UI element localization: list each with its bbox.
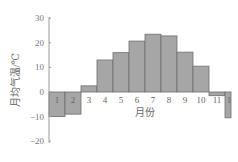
month-label: 8: [167, 95, 172, 105]
bar-month-8: [161, 36, 177, 92]
month-label: 1: [227, 95, 232, 105]
bar-month-5: [113, 53, 129, 92]
month-label: 4: [103, 95, 108, 105]
bar-month-3: [81, 86, 97, 92]
month-label: 9: [183, 95, 188, 105]
y-axis-title: 月均气温/℃: [9, 53, 21, 107]
y-axis-ticks: 3020100−10−20: [30, 13, 51, 146]
bar-month-9: [177, 52, 193, 92]
month-label: 1: [55, 95, 60, 105]
x-axis-title: 月份: [135, 107, 155, 118]
month-label: 10: [197, 95, 207, 105]
bar-month-7: [145, 34, 161, 92]
month-label: 5: [119, 95, 124, 105]
y-tick-label: −10: [30, 112, 45, 122]
y-tick-label: −20: [30, 136, 45, 146]
month-label: 2: [71, 95, 76, 105]
bar-month-6: [129, 41, 145, 92]
y-tick-label: 20: [35, 38, 45, 48]
y-tick-label: 10: [35, 62, 45, 72]
month-label: 6: [135, 95, 140, 105]
bar-month-4: [97, 60, 113, 92]
y-tick-label: 0: [40, 87, 45, 97]
month-label: 7: [151, 95, 156, 105]
bar-month-10: [193, 66, 209, 92]
bars-group: [49, 34, 231, 118]
month-label: 3: [87, 95, 92, 105]
y-tick-label: 30: [35, 13, 45, 23]
month-label: 11: [213, 95, 222, 105]
bar-chart: 3020100−10−20 12345678910111 月均气温/℃ 月份: [0, 0, 238, 162]
